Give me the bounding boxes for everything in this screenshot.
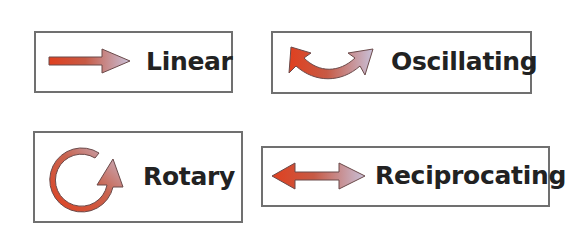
- right-arrow-icon: [48, 47, 132, 75]
- motion-card-reciprocating: Reciprocating: [261, 146, 550, 207]
- circular-arrow-icon: [41, 137, 135, 219]
- motion-card-oscillating: Oscillating: [271, 31, 532, 94]
- motion-label: Linear: [146, 47, 233, 76]
- motion-label: Oscillating: [391, 47, 537, 76]
- motion-label: Rotary: [143, 162, 235, 191]
- curved-double-arrow-icon: [277, 43, 381, 85]
- motion-label: Reciprocating: [375, 161, 566, 190]
- motion-card-rotary: Rotary: [33, 131, 243, 223]
- left-right-arrow-icon: [271, 160, 367, 192]
- motion-card-linear: Linear: [34, 31, 233, 93]
